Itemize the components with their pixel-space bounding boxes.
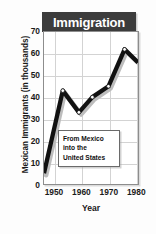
data-point-marker — [107, 84, 111, 88]
data-point-marker — [90, 95, 94, 99]
x-axis-tick-labels: 1950196019701980 — [43, 188, 139, 200]
y-axis-tick: 40 — [21, 93, 40, 101]
x-axis-label: Year — [43, 203, 139, 213]
y-axis-tick: 20 — [21, 137, 40, 145]
data-point-marker — [61, 89, 65, 93]
annotation-line: From Mexico — [63, 134, 115, 143]
y-axis-tick: 10 — [21, 159, 40, 167]
annotation-line: United States — [63, 153, 115, 162]
y-axis-tick-labels: 010203040506070 — [21, 31, 40, 185]
data-point-marker — [123, 47, 127, 51]
y-axis-tick: 50 — [21, 71, 40, 79]
annotation-line: into the — [63, 143, 115, 152]
y-axis-tick: 60 — [21, 49, 40, 57]
y-axis-tick: 70 — [21, 27, 40, 35]
data-point-marker — [77, 110, 81, 114]
x-axis-tick: 1980 — [127, 188, 146, 196]
x-axis-tick: 1970 — [100, 188, 119, 196]
x-axis-tick: 1960 — [72, 188, 91, 196]
chart-title-box: Immigration — [42, 12, 136, 32]
x-axis-tick: 1950 — [45, 188, 64, 196]
y-axis-tick: 30 — [21, 115, 40, 123]
y-axis-tick: 0 — [21, 181, 40, 189]
chart-title: Immigration — [53, 16, 125, 29]
chart-figure: Immigration Mexican Immigrants (in thous… — [0, 0, 156, 234]
chart-annotation-callout: From Mexicointo theUnited States — [58, 130, 120, 167]
